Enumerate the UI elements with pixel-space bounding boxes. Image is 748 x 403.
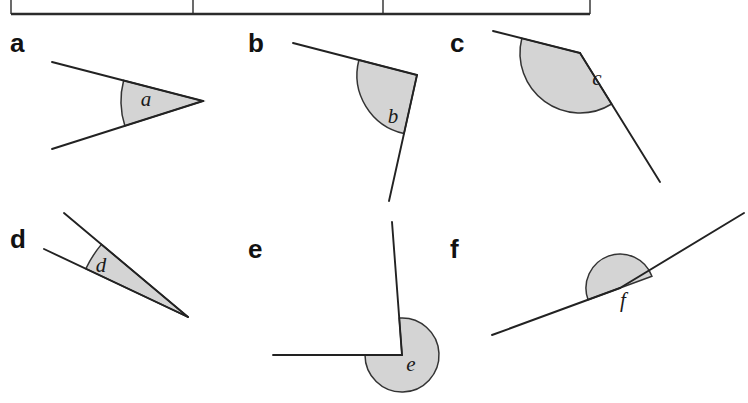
angle-letter-b: b bbox=[388, 104, 399, 128]
angle-b-ray-1 bbox=[293, 43, 417, 75]
angle-wedge-f bbox=[586, 254, 652, 300]
angle-letter-c: c bbox=[592, 66, 602, 90]
angle-shaded-regions bbox=[86, 38, 652, 392]
figure-item-labels: abcdef bbox=[10, 28, 464, 264]
figure-label-c: c bbox=[450, 28, 464, 58]
angle-letter-d: d bbox=[96, 253, 107, 277]
worksheet-page: abcdef abcdef bbox=[0, 0, 748, 403]
angle-f-ray-2 bbox=[492, 288, 620, 335]
angle-letter-f: f bbox=[620, 288, 629, 312]
angle-e-ray-1 bbox=[392, 222, 402, 355]
angles-diagram-canvas: abcdef abcdef bbox=[0, 0, 748, 403]
angle-d-ray-1 bbox=[64, 213, 188, 317]
angle-letter-labels: abcdef bbox=[96, 66, 629, 376]
figure-label-e: e bbox=[248, 234, 262, 264]
angle-f-ray-1 bbox=[620, 213, 744, 288]
table-bottom-border bbox=[11, 0, 590, 14]
angle-letter-e: e bbox=[406, 352, 415, 376]
angle-letter-a: a bbox=[141, 87, 152, 111]
angle-wedge-a bbox=[121, 80, 203, 125]
figure-label-d: d bbox=[10, 224, 26, 254]
figure-label-a: a bbox=[10, 28, 25, 58]
figure-label-b: b bbox=[248, 28, 264, 58]
figure-label-f: f bbox=[450, 234, 459, 264]
